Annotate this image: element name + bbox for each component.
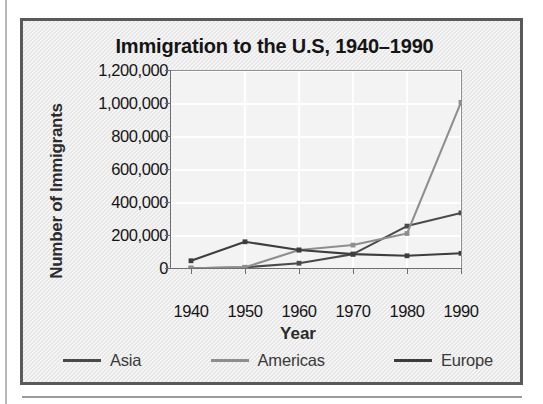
x-tick-label: 1960 — [269, 302, 329, 321]
legend-line-swatch — [394, 359, 432, 362]
x-tick-label: 1950 — [215, 302, 275, 321]
data-point-marker — [351, 252, 356, 257]
x-tick-mark — [461, 269, 462, 274]
y-tick-mark — [165, 202, 171, 203]
page-bottom-rule — [22, 396, 522, 398]
y-tick-mark — [165, 268, 171, 269]
x-tick-mark — [245, 269, 246, 274]
data-point-marker — [297, 248, 302, 253]
data-point-marker — [297, 261, 302, 266]
y-tick-label: 400,000 — [60, 193, 168, 212]
x-axis-line — [170, 268, 462, 269]
y-tick-label: 0 — [60, 259, 168, 278]
x-tick-mark — [191, 269, 192, 274]
y-tick-label: 1,200,000 — [60, 61, 168, 80]
legend-item-europe[interactable]: Europe — [394, 351, 493, 370]
data-point-marker — [405, 253, 410, 258]
chart-legend: AsiaAmericasEurope — [63, 347, 493, 373]
y-tick-mark — [165, 235, 171, 236]
data-point-marker — [189, 258, 194, 263]
chart-plot-svg — [171, 71, 461, 269]
y-tick-label: 600,000 — [60, 160, 168, 179]
data-point-marker — [405, 231, 410, 236]
y-tick-label: 1,000,000 — [60, 94, 168, 113]
data-point-marker — [459, 100, 461, 105]
legend-line-swatch — [211, 359, 249, 362]
legend-label: Asia — [110, 351, 141, 370]
x-tick-label: 1970 — [323, 302, 383, 321]
data-point-marker — [459, 251, 461, 256]
y-tick-label: 200,000 — [60, 226, 168, 245]
x-axis-title: Year — [148, 324, 448, 344]
data-point-marker — [459, 211, 461, 216]
data-point-marker — [351, 243, 356, 248]
x-tick-label: 1980 — [377, 302, 437, 321]
plot-area — [171, 70, 462, 269]
legend-line-swatch — [63, 359, 101, 362]
y-tick-mark — [165, 103, 171, 104]
data-series-group — [189, 100, 461, 269]
y-axis-tick-labels: 1,200,0001,000,000800,000600,000400,0002… — [53, 21, 168, 388]
figure-page: Immigration to the U.S, 1940–1990 Number… — [0, 0, 543, 404]
y-tick-mark — [165, 169, 171, 170]
legend-label: Americas — [258, 351, 325, 370]
x-tick-label: 1990 — [431, 302, 491, 321]
x-tick-mark — [299, 269, 300, 274]
legend-label: Europe — [441, 351, 493, 370]
x-tick-mark — [407, 269, 408, 274]
y-tick-mark — [165, 136, 171, 137]
gridlines — [171, 71, 461, 269]
data-point-marker — [243, 239, 248, 244]
series-line-asia — [191, 213, 461, 268]
legend-item-americas[interactable]: Americas — [211, 351, 325, 370]
chart-figure-frame: Immigration to the U.S, 1940–1990 Number… — [20, 18, 523, 385]
x-tick-label: 1940 — [161, 302, 221, 321]
page-edge-rule — [5, 0, 7, 404]
y-tick-label: 800,000 — [60, 127, 168, 146]
series-line-americas — [191, 102, 461, 268]
x-tick-mark — [353, 269, 354, 274]
legend-item-asia[interactable]: Asia — [63, 351, 141, 370]
y-tick-mark — [165, 70, 171, 71]
